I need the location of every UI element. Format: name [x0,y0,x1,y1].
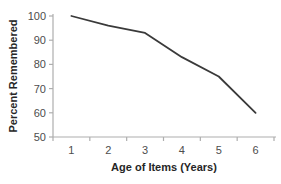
y-tick-label: 100 [28,10,46,22]
y-tick-label: 50 [34,131,46,143]
x-tick-label: 3 [142,144,148,156]
line-chart-figure: 1009080706050123456 Percent Remembered A… [0,0,281,184]
x-tick-label: 1 [68,144,74,156]
data-line-percent-remembered [71,16,255,113]
x-tick-label: 2 [105,144,111,156]
y-axis-title: Percent Remembered [7,19,19,132]
y-tick-label: 70 [34,83,46,95]
x-tick-label: 6 [253,144,259,156]
x-tick-label: 5 [216,144,222,156]
y-tick-label: 80 [34,58,46,70]
line-chart: 1009080706050123456 Percent Remembered A… [0,0,281,184]
x-axis-title: Age of Items (Years) [111,161,217,173]
y-tick-label: 60 [34,107,46,119]
y-tick-label: 90 [34,34,46,46]
x-tick-label: 4 [179,144,185,156]
